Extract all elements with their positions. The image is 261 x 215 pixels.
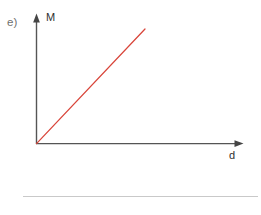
y-axis: [33, 14, 40, 145]
y-axis-arrowhead-icon: [33, 14, 40, 23]
figure-container: e) M d: [0, 0, 261, 215]
data-line-series-1: [37, 29, 146, 144]
part-label: e): [7, 17, 17, 29]
x-axis-arrowhead-icon: [235, 140, 244, 147]
x-axis-label: d: [229, 150, 235, 161]
x-axis: [36, 140, 244, 147]
y-axis-label: M: [46, 12, 55, 23]
plot-canvas: [0, 0, 261, 215]
